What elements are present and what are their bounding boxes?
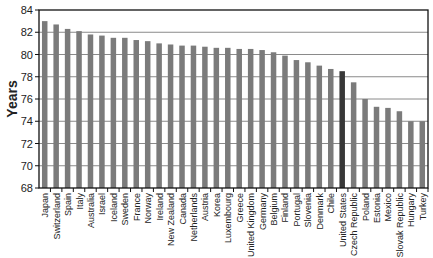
y-tick-label: 76 xyxy=(21,93,33,105)
bar-chart: Years 687072747678808284JapanSwitzerland… xyxy=(0,0,433,258)
bar-united-kingdom xyxy=(248,49,254,188)
x-tick-label: Portugal xyxy=(292,193,302,227)
bar-france xyxy=(134,40,140,188)
x-tick-label: Canada xyxy=(178,193,188,225)
y-axis-label: Years xyxy=(4,79,20,119)
bar-germany xyxy=(259,50,265,188)
x-tick-label: Luxembourg xyxy=(223,193,233,243)
x-tick-label: Austria xyxy=(200,193,210,221)
x-tick-label: Netherlands xyxy=(189,193,199,242)
x-tick-label: France xyxy=(132,193,142,221)
bar-korea xyxy=(214,48,220,188)
bar-japan xyxy=(42,21,48,188)
bar-switzerland xyxy=(53,24,59,188)
x-tick-label: Korea xyxy=(212,193,222,217)
bar-norway xyxy=(145,41,151,188)
x-tick-label: Greece xyxy=(235,193,245,223)
x-tick-label: Estonia xyxy=(372,193,382,223)
x-tick-label: Germany xyxy=(258,193,268,231)
y-tick-label: 70 xyxy=(21,160,33,172)
bar-new-zealand xyxy=(168,44,174,188)
x-tick-label: Mexico xyxy=(383,193,393,222)
y-tick-label: 80 xyxy=(21,49,33,61)
x-tick-label: Denmark xyxy=(315,193,325,230)
x-tick-label: Chile xyxy=(326,193,336,214)
x-tick-label: Sweden xyxy=(120,193,130,226)
chart-canvas: 687072747678808284JapanSwitzerlandSpainI… xyxy=(0,0,433,258)
y-tick-label: 84 xyxy=(21,4,33,16)
y-tick-label: 78 xyxy=(21,71,33,83)
x-tick-label: Spain xyxy=(63,193,73,216)
bar-estonia xyxy=(374,107,380,188)
x-tick-label: United Kingdom xyxy=(246,193,256,257)
bar-australia xyxy=(88,34,94,188)
bar-finland xyxy=(282,56,288,188)
x-tick-label: Norway xyxy=(143,193,153,224)
x-tick-label: United States xyxy=(338,193,348,248)
x-tick-label: Hungary xyxy=(406,193,416,228)
bar-united-states xyxy=(339,71,345,188)
bar-ireland xyxy=(156,43,162,188)
x-tick-label: Slovenia xyxy=(303,193,313,228)
bar-turkey xyxy=(420,121,426,188)
x-tick-label: Belgium xyxy=(269,193,279,226)
bar-slovenia xyxy=(305,62,311,188)
bar-italy xyxy=(76,31,82,188)
bar-poland xyxy=(362,99,368,188)
bar-portugal xyxy=(294,60,300,188)
bar-luxembourg xyxy=(225,48,231,188)
x-tick-label: Japan xyxy=(40,193,50,218)
bar-canada xyxy=(179,46,185,188)
bar-denmark xyxy=(317,66,323,188)
bar-greece xyxy=(236,49,242,188)
x-tick-label: Finland xyxy=(280,193,290,223)
bar-sweden xyxy=(122,38,128,188)
bar-hungary xyxy=(408,121,414,188)
bar-chile xyxy=(328,69,334,188)
x-tick-label: Australia xyxy=(86,193,96,228)
x-tick-label: Israel xyxy=(97,193,107,215)
bar-mexico xyxy=(385,108,391,188)
x-tick-label: Turkey xyxy=(418,193,428,221)
x-tick-label: Ireland xyxy=(155,193,165,221)
bar-czech-republic xyxy=(351,82,357,188)
y-tick-label: 74 xyxy=(21,115,33,127)
y-tick-label: 72 xyxy=(21,138,33,150)
y-tick-label: 82 xyxy=(21,26,33,38)
x-tick-label: Italy xyxy=(75,193,85,210)
bar-netherlands xyxy=(191,46,197,188)
x-tick-label: Czech Republic xyxy=(349,193,359,257)
x-tick-label: Poland xyxy=(361,193,371,221)
bar-belgium xyxy=(271,52,277,188)
x-tick-label: Iceland xyxy=(109,193,119,222)
x-tick-label: Slovak Republic xyxy=(395,193,405,258)
bar-spain xyxy=(65,29,71,188)
bar-slovak-republic xyxy=(397,111,403,188)
bar-austria xyxy=(202,47,208,188)
y-tick-label: 68 xyxy=(21,182,33,194)
x-tick-label: New Zealand xyxy=(166,193,176,246)
bar-israel xyxy=(99,36,105,188)
bar-iceland xyxy=(111,38,117,188)
x-tick-label: Switzerland xyxy=(52,193,62,240)
